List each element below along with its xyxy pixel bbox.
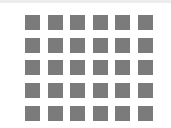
grid-square — [93, 38, 108, 53]
grid-square — [48, 15, 63, 30]
grid-square — [48, 38, 63, 53]
grid-square — [93, 15, 108, 30]
grid-square — [115, 15, 130, 30]
grid-square — [70, 106, 85, 121]
grid-square — [25, 15, 40, 30]
grid-square — [70, 60, 85, 75]
grid-square — [115, 106, 130, 121]
top-band — [0, 0, 171, 3]
grid-square — [138, 106, 153, 121]
grid-square — [115, 60, 130, 75]
grid-square — [138, 60, 153, 75]
grid-square — [48, 60, 63, 75]
grid-square — [93, 106, 108, 121]
grid-square — [138, 15, 153, 30]
grid-square — [115, 83, 130, 98]
grid-square — [25, 38, 40, 53]
grid-square — [138, 83, 153, 98]
grid-square — [25, 106, 40, 121]
grid-square — [93, 60, 108, 75]
grid-square — [93, 83, 108, 98]
grid-square — [48, 106, 63, 121]
grid-square — [115, 38, 130, 53]
square-grid — [25, 15, 153, 121]
grid-square — [70, 83, 85, 98]
grid-square — [48, 83, 63, 98]
grid-square — [25, 60, 40, 75]
grid-square — [70, 38, 85, 53]
grid-square — [70, 15, 85, 30]
grid-square — [138, 38, 153, 53]
grid-square — [25, 83, 40, 98]
